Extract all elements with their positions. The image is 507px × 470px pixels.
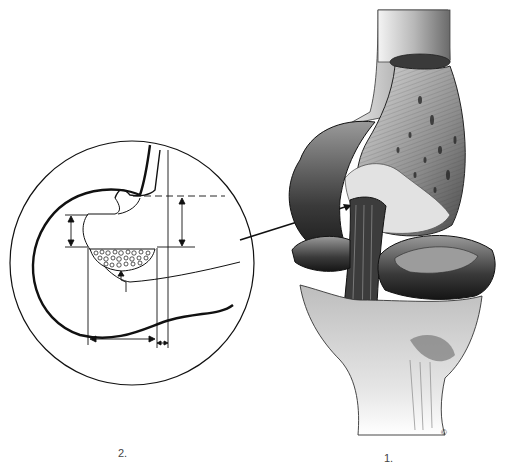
lateral-meniscus [292, 236, 350, 271]
knee-illustration [289, 10, 495, 435]
copyright-mark: © [441, 428, 447, 437]
panel-label-2: 2. [118, 447, 127, 459]
inset-diagram [10, 141, 254, 385]
panel-label-1: 1. [384, 452, 393, 464]
tibia [300, 285, 482, 435]
figure-canvas [0, 0, 507, 470]
